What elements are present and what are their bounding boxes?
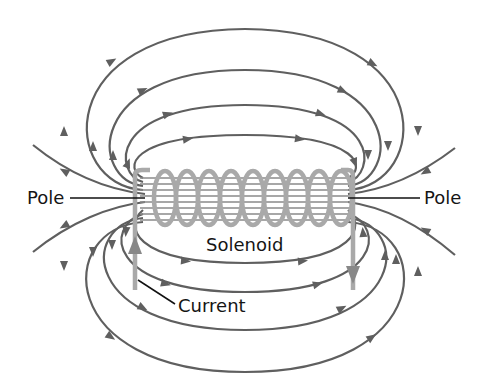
pole-left-label: Pole	[27, 189, 64, 207]
current-arrow-down-icon	[346, 266, 360, 284]
solenoid-coil	[135, 170, 353, 290]
field-lines-top	[60, 29, 422, 190]
solenoid-label: Solenoid	[206, 236, 283, 254]
solenoid-diagram	[0, 0, 490, 392]
current-label: Current	[178, 297, 246, 315]
pole-right-label: Pole	[424, 189, 461, 207]
